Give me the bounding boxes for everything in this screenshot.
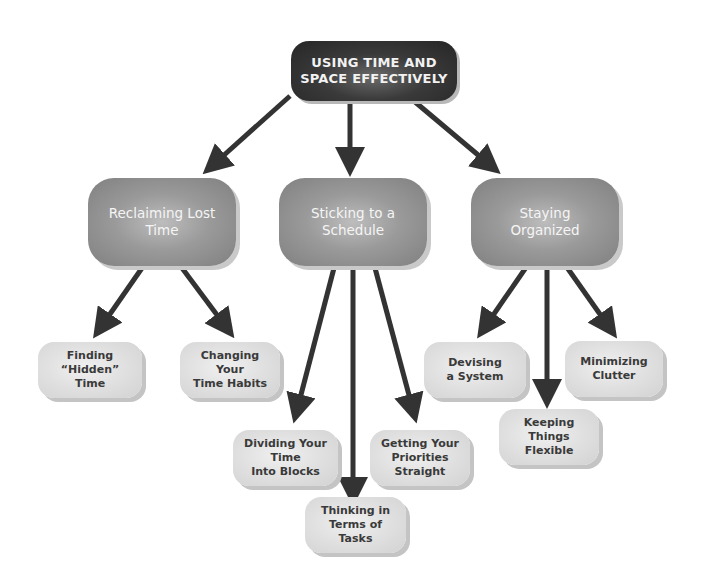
branch-label-line1: Sticking to a bbox=[311, 205, 395, 222]
leaf-label-line1: Dividing Your Time bbox=[239, 437, 332, 465]
leaf-node-finding-hidden-time: Finding “Hidden” Time bbox=[38, 342, 142, 398]
leaf-label-line2: Time bbox=[44, 377, 136, 391]
branch-label-line2: Organized bbox=[510, 222, 579, 239]
leaf-node-keeping-things-flexible: Keeping Things Flexible bbox=[499, 409, 599, 465]
leaf-label-line1: Finding “Hidden” bbox=[44, 349, 136, 377]
branch-label-line1: Staying bbox=[510, 205, 579, 222]
branch-node-reclaiming-lost-time: Reclaiming Lost Time bbox=[88, 178, 236, 266]
branch-label-line2: Time bbox=[109, 222, 215, 239]
leaf-label-line2: a System bbox=[446, 370, 503, 384]
arrow-reclaiming-to-finding bbox=[101, 268, 142, 327]
root-label-line2: SPACE EFFECTIVELY bbox=[300, 71, 448, 87]
arrow-root-to-organized bbox=[408, 96, 490, 165]
leaf-node-dividing-your-time-into-blocks: Dividing Your Time Into Blocks bbox=[233, 430, 338, 486]
leaf-label-line2: Terms of Tasks bbox=[311, 518, 400, 546]
arrow-sticking-to-getting bbox=[375, 268, 413, 410]
leaf-label-line2: Into Blocks bbox=[239, 465, 332, 479]
leaf-node-getting-your-priorities-straight: Getting Your Priorities Straight bbox=[370, 430, 470, 486]
leaf-label-line1: Minimizing bbox=[580, 355, 647, 369]
root-label-line1: USING TIME AND bbox=[300, 55, 448, 71]
leaf-label-line1: Changing Your bbox=[186, 349, 274, 377]
arrow-reclaiming-to-changing bbox=[182, 268, 226, 327]
leaf-label-line2: Priorities Straight bbox=[376, 451, 464, 479]
root-node: USING TIME AND SPACE EFFECTIVELY bbox=[291, 41, 457, 101]
leaf-label-line2: Clutter bbox=[580, 369, 647, 383]
leaf-node-changing-your-time-habits: Changing Your Time Habits bbox=[180, 342, 280, 398]
arrow-root-to-reclaiming bbox=[213, 96, 290, 165]
leaf-label-line1: Thinking in bbox=[311, 504, 400, 518]
leaf-label-line1: Getting Your bbox=[376, 437, 464, 451]
leaf-label-line1: Devising bbox=[446, 356, 503, 370]
leaf-label-line2: Flexible bbox=[505, 444, 593, 458]
leaf-node-thinking-in-terms-of-tasks: Thinking in Terms of Tasks bbox=[305, 497, 406, 553]
concept-map: USING TIME AND SPACE EFFECTIVELY Reclaim… bbox=[0, 0, 706, 577]
arrow-sticking-to-dividing bbox=[297, 268, 334, 410]
leaf-label-line2: Time Habits bbox=[186, 377, 274, 391]
arrow-organized-to-devising bbox=[485, 266, 527, 327]
leaf-node-devising-a-system: Devising a System bbox=[424, 342, 526, 398]
arrow-organized-to-minimizing bbox=[566, 266, 609, 327]
leaf-label-line1: Keeping Things bbox=[505, 416, 593, 444]
branch-node-staying-organized: Staying Organized bbox=[471, 178, 619, 266]
branch-node-sticking-to-a-schedule: Sticking to a Schedule bbox=[279, 178, 427, 266]
branch-label-line2: Schedule bbox=[311, 222, 395, 239]
leaf-node-minimizing-clutter: Minimizing Clutter bbox=[565, 341, 663, 397]
branch-label-line1: Reclaiming Lost bbox=[109, 205, 215, 222]
